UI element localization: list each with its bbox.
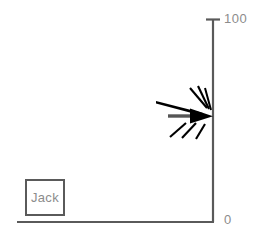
diagram-canvas: 100 0 Jack xyxy=(0,0,262,239)
actor-label-jack: Jack xyxy=(31,190,59,205)
spark-line-down-3 xyxy=(196,124,205,139)
axis-label-bottom: 0 xyxy=(224,213,232,226)
axis-label-top: 100 xyxy=(224,12,247,25)
impact-arrow-head xyxy=(190,109,213,124)
impact-arrow xyxy=(168,109,213,124)
actor-box-jack: Jack xyxy=(25,179,65,216)
